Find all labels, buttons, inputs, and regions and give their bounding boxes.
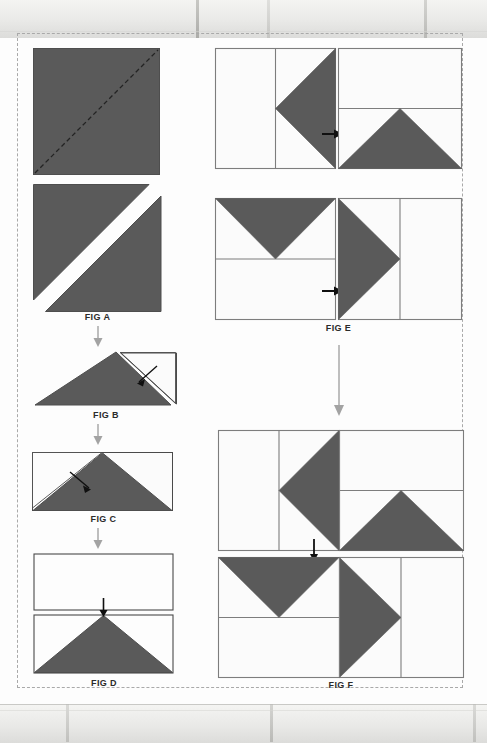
- figure-c-unit: [26, 450, 181, 512]
- figure-b-caption: FIG B: [33, 410, 179, 420]
- figure-b-unit: [33, 350, 179, 406]
- figure-e-unit-top-right: [338, 48, 462, 169]
- figure-d-unit: [33, 553, 175, 675]
- wood-grain-bottom: [0, 710, 487, 711]
- figure-e-unit-bottom-right: [338, 198, 462, 320]
- figure-c-caption: FIG C: [26, 514, 181, 524]
- figure-f-top-row: [218, 430, 464, 551]
- figure-f-bottom-row: [218, 557, 464, 678]
- figure-f-caption: FIG F: [218, 680, 464, 690]
- figure-e-unit-top-left: [215, 48, 336, 169]
- flow-arrow-c-to-d: [88, 528, 108, 554]
- flow-arrow-a-to-b: [88, 326, 108, 352]
- figure-a-caption: FIG A: [33, 312, 162, 322]
- figure-e-caption: FIG E: [215, 323, 462, 333]
- figure-a-marked-square: [33, 48, 160, 175]
- figure-e-unit-bottom-left: [215, 198, 336, 320]
- figure-a-cut-square: [33, 184, 162, 312]
- wood-grain-top: [0, 31, 487, 32]
- flow-arrow-b-to-c: [88, 424, 108, 450]
- flow-arrow-e-to-f: [329, 345, 349, 421]
- figure-d-caption: FIG D: [33, 678, 175, 688]
